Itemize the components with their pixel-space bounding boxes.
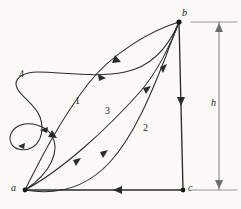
dimension-arrowhead-top	[215, 23, 223, 32]
figure-canvas: a b c 1 2 3 4 h	[0, 0, 241, 209]
curve-2-arrowhead-upper	[160, 64, 167, 73]
curve-1-path	[25, 22, 179, 190]
vertex-label-a: a	[11, 183, 16, 193]
edge-b-to-c-group	[177, 22, 185, 190]
vertex-label-c: c	[188, 183, 192, 193]
path-label-2: 2	[143, 123, 148, 133]
curve-2-arrowhead-lower	[100, 150, 108, 158]
vertex-dot-b	[176, 19, 181, 24]
dimension-arrowhead-bottom	[215, 180, 223, 189]
edge-c-to-a-arrowhead	[113, 186, 122, 194]
curve-1-group	[25, 22, 179, 190]
curve-3-path	[25, 22, 179, 190]
path-label-4: 4	[19, 69, 24, 79]
curve-3-group	[25, 22, 179, 190]
vertex-label-b: b	[182, 8, 187, 18]
curve-4-group	[10, 22, 179, 190]
vertex-dot-a	[23, 188, 28, 193]
dimension-label-h: h	[211, 98, 216, 108]
path-label-3: 3	[105, 106, 110, 116]
curve-2-group	[25, 22, 179, 192]
curve-4-loop-arrowhead	[18, 143, 25, 149]
edge-c-to-a-group	[25, 186, 183, 194]
edge-b-to-c-arrowhead	[177, 97, 185, 106]
curve-1-arrowhead-lower	[48, 130, 57, 138]
vertex-dot-c	[181, 188, 186, 193]
curve-2-path	[25, 22, 179, 192]
curve-4-path	[10, 22, 179, 190]
diagram-svg	[0, 0, 241, 209]
path-label-1: 1	[75, 96, 80, 106]
curve-3-arrowhead-lower	[73, 158, 81, 166]
